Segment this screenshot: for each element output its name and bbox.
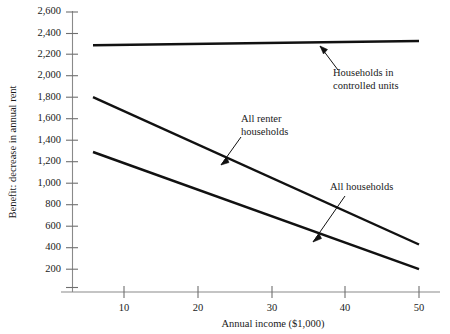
y-axis-ticks: 200 400 600 800 1,000 1,200 1,400 1,600 … — [37, 5, 78, 287]
annotation-households-in-controlled-units: Households in controlled units — [320, 46, 399, 91]
y-tick-label: 800 — [45, 198, 61, 209]
x-tick-label: 50 — [414, 302, 425, 313]
y-tick-label: 1,600 — [37, 112, 61, 123]
chart-figure: 200 400 600 800 1,000 1,200 1,400 1,600 … — [0, 0, 450, 334]
arrowhead-icon — [320, 46, 328, 54]
y-tick-label: 1,800 — [37, 91, 61, 102]
y-tick-label: 1,400 — [37, 134, 61, 145]
y-tick-label: 2,000 — [37, 69, 61, 80]
y-tick-label: 1,000 — [37, 177, 61, 188]
annotation-label-line-1: All households — [330, 181, 393, 192]
annotation-label-line-2: controlled units — [333, 80, 399, 91]
x-tick-label: 20 — [193, 302, 204, 313]
y-tick-label: 2,600 — [37, 5, 61, 16]
x-tick-label: 40 — [340, 302, 351, 313]
x-axis-title: Annual income ($1,000) — [222, 318, 325, 330]
annotation-label-line-2: households — [241, 126, 288, 137]
x-tick-label: 10 — [119, 302, 130, 313]
y-axis-title: Benefit: decrease in annual rent — [7, 85, 18, 218]
annotation-all-households: All households — [313, 181, 393, 242]
x-tick-label: 30 — [267, 302, 278, 313]
y-tick-label: 2,200 — [37, 48, 61, 59]
y-tick-label: 600 — [45, 220, 61, 231]
annotation-all-renter-households: All renter households — [221, 113, 288, 165]
y-tick-label: 1,200 — [37, 155, 61, 166]
y-tick-label: 400 — [45, 241, 61, 252]
line-chart: 200 400 600 800 1,000 1,200 1,400 1,600 … — [0, 0, 450, 334]
y-tick-label: 200 — [45, 263, 61, 274]
y-tick-label: 2,400 — [37, 27, 61, 38]
x-axis-ticks: 10 20 30 40 50 — [119, 286, 425, 313]
annotation-label-line-1: Households in — [333, 67, 394, 78]
annotation-label-line-1: All renter — [241, 113, 282, 124]
series-line-households-in-controlled-units — [93, 41, 419, 45]
